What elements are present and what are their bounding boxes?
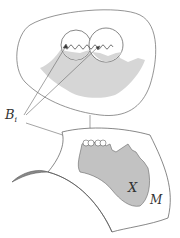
diagram-canvas: Bi X M [0,0,180,238]
label-region: X [127,180,138,195]
label-manifold: M [149,193,163,207]
manifold-side-strip [12,170,48,182]
label-balls: Bi [4,107,18,124]
